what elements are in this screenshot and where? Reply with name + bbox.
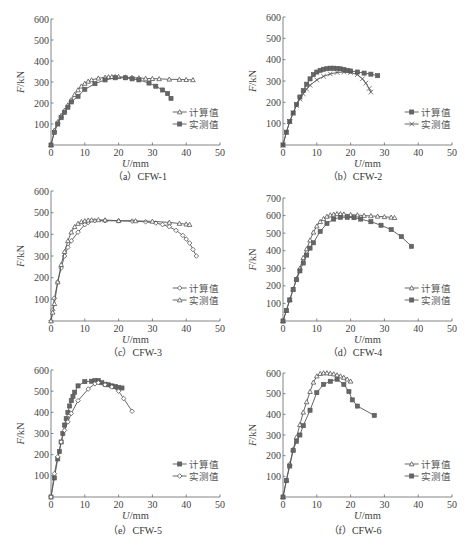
y-tick-label: 600 [266,210,281,221]
y-tick-label: 400 [266,54,281,65]
panel-caption: （e）CFW-5 [108,525,162,536]
square-legend-icon [178,462,182,466]
legend-label: 实测值 [189,471,219,482]
square-marker-icon [315,391,319,395]
y-tick-label: 600 [266,368,281,379]
y-tick-label: 200 [266,97,281,108]
y-tick-label: 300 [266,76,281,87]
y-tick-label: 200 [34,98,49,109]
y-axis-label: F/kN [247,248,258,272]
triangle-marker-icon [301,410,306,414]
diamond-legend-icon [177,286,182,291]
legend-item: 计算值 [173,283,219,294]
square-marker-icon [291,448,295,452]
diamond-marker-icon [167,224,172,229]
y-tick-label: 400 [266,245,281,256]
series-calculated [49,379,124,500]
y-tick-label: 500 [34,207,49,218]
square-marker-icon [281,495,285,499]
legend-label: 计算值 [189,459,219,470]
x-tick-label: 50 [215,323,225,334]
panel-caption: （c）CFW-3 [108,347,162,358]
square-marker-icon [298,433,302,437]
square-marker-icon [71,394,75,398]
chart-panel-e: 01020304050100200300400500600U/mmF/kN计算值… [15,365,225,537]
series-measured [49,380,135,499]
square-marker-icon [325,221,329,225]
square-marker-icon [301,424,305,428]
x-tick-label: 50 [447,323,457,334]
square-marker-icon [305,253,309,257]
diamond-marker-icon [143,219,148,224]
square-marker-icon [369,72,373,76]
legend-item: 计算值 [405,107,451,118]
y-tick-label: 100 [266,471,281,482]
panel-caption: （f）CFW-6 [329,525,382,536]
square-marker-icon [321,382,325,386]
y-axis-label: F/kN [247,423,258,447]
square-marker-icon [69,100,73,104]
triangle-marker-icon [311,230,316,234]
diamond-marker-icon [52,296,57,301]
square-marker-icon [328,379,332,383]
square-marker-icon [137,78,141,82]
legend-item: 实测值 [173,471,219,482]
square-marker-icon [113,76,117,80]
legend-label: 计算值 [421,459,451,470]
x-tick-label: 10 [80,499,90,510]
y-tick-label: 600 [34,14,49,25]
square-marker-icon [59,116,63,120]
square-marker-icon [62,110,66,114]
square-marker-icon [359,217,363,221]
y-tick-label: 700 [266,193,281,204]
diamond-marker-icon [194,254,199,259]
square-marker-icon [335,377,339,381]
x-tick-label: 10 [80,323,90,334]
legend-label: 计算值 [421,283,451,294]
y-tick-label: 600 [34,186,49,197]
cross-marker-icon [321,74,326,79]
series-calculated [281,212,397,323]
y-tick-label: 100 [266,298,281,309]
x-tick-label: 50 [447,499,457,510]
y-axis-label: F/kN [15,422,26,446]
square-marker-icon [83,380,87,384]
y-tick-label: 200 [34,272,49,283]
x-tick-label: 40 [413,499,423,510]
y-tick-label: 500 [266,388,281,399]
x-axis-label: U/mm [354,510,381,521]
square-marker-icon [301,261,305,265]
square-marker-icon [298,269,302,273]
diamond-marker-icon [191,247,196,252]
square-marker-icon [52,130,56,134]
diamond-marker-icon [52,471,57,476]
triangle-marker-icon [311,380,316,384]
legend-item: 实测值 [405,119,451,130]
x-tick-label: 20 [346,147,356,158]
x-tick-label: 30 [147,147,157,158]
legend-label: 实测值 [421,119,451,130]
chart-panel-f: 01020304050100200300400500600U/mmF/kN计算值… [247,368,457,537]
chart-panel-c: 01020304050100200300400500600U/mmF/kN计算值… [15,186,225,359]
square-marker-icon [389,228,393,232]
square-marker-icon [352,216,356,220]
x-tick-label: 10 [312,323,322,334]
square-marker-icon [372,413,376,417]
x-tick-label: 20 [346,323,356,334]
series-measured [49,218,192,323]
square-marker-icon [281,319,285,323]
square-marker-icon [49,143,53,147]
square-marker-icon [83,87,87,91]
panel-caption: （a）CFW-1 [113,171,167,182]
legend-label: 计算值 [421,107,451,118]
square-marker-icon [284,478,288,482]
legend-label: 实测值 [189,119,219,130]
x-tick-label: 50 [447,147,457,158]
legend-item: 实测值 [173,119,219,130]
y-tick-label: 300 [34,77,49,88]
figure-canvas: 01020304050100200300400500600U/mmF/kN计算值… [0,0,470,554]
square-legend-icon [178,122,182,126]
square-marker-icon [338,215,342,219]
square-marker-icon [355,404,359,408]
legend-label: 实测值 [421,295,451,306]
